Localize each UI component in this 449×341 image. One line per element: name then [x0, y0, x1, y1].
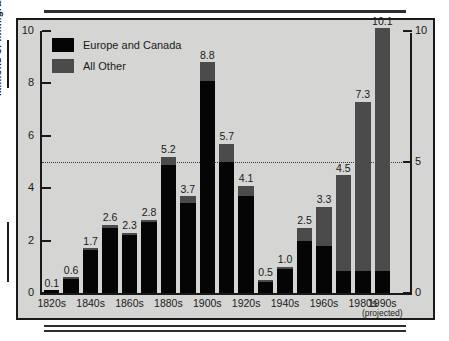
secondary-y-tick-label: 0 [415, 287, 421, 298]
y-tick-label: 2 [8, 235, 34, 246]
bar-1870s [141, 220, 157, 293]
bar-1910s [219, 144, 235, 293]
bar-value-label: 2.3 [122, 220, 137, 231]
chart-figure: 1086420 Millions of Immigrants 1050 0.10… [0, 0, 449, 341]
secondary-y-tick-mark [403, 161, 412, 163]
bar-value-label: 0.1 [44, 278, 59, 289]
secondary-y-tick-mark [403, 30, 412, 32]
bar-segment-all-other [375, 28, 391, 270]
chart-legend: Europe and Canada All Other [52, 38, 181, 80]
bottom-rule-lower [44, 330, 406, 332]
secondary-y-tick-label: 10 [415, 25, 427, 36]
bar-segment-europe-and-canada [63, 279, 79, 293]
x-tick-label-1820s: 1820s [30, 298, 74, 309]
bar-1880s [161, 157, 177, 293]
bar-value-label: 1.0 [278, 254, 293, 265]
x-tick-label-1990s: 1990s(projected) [360, 298, 404, 318]
bar-value-label: 8.8 [200, 50, 215, 61]
y-axis-title: Millions of Immigrants [0, 0, 3, 96]
y-tick-label: 4 [8, 182, 34, 193]
y-title-rule-bottom [7, 222, 9, 282]
bar-value-label: 3.3 [317, 194, 332, 205]
bar-1960s [316, 207, 332, 293]
bar-segment-europe-and-canada [180, 203, 196, 293]
bar-1990s [375, 28, 391, 293]
legend-label-all-other: All Other [83, 61, 126, 72]
bar-segment-all-other [161, 157, 177, 165]
bar-value-label: 0.5 [258, 267, 273, 278]
bar-segment-all-other [355, 102, 371, 271]
y-tick-label: 0 [8, 287, 34, 298]
bar-value-label: 7.3 [356, 89, 371, 100]
secondary-y-tick-label: 5 [415, 156, 421, 167]
x-tick-label-1920s: 1920s [224, 298, 268, 309]
bar-segment-europe-and-canada [336, 271, 352, 293]
legend-label-europe-and-canada: Europe and Canada [83, 40, 181, 51]
y-title-rule-top [7, 40, 9, 88]
x-tick-label-1900s: 1900s [185, 298, 229, 309]
bar-1930s [258, 280, 274, 293]
secondary-y-axis-line [410, 33, 412, 294]
x-tick-sublabel-projected: (projected) [360, 309, 404, 318]
bar-segment-europe-and-canada [277, 269, 293, 293]
x-tick-label-1860s: 1860s [108, 298, 152, 309]
legend-item-europe-and-canada: Europe and Canada [52, 38, 181, 52]
bar-value-label: 2.6 [103, 212, 118, 223]
bar-segment-all-other [297, 228, 313, 241]
bar-1920s [238, 186, 254, 293]
bar-1980s [355, 102, 371, 293]
x-axis-line [40, 293, 412, 295]
bar-value-label: 1.7 [83, 236, 98, 247]
bar-value-label: 5.2 [161, 144, 176, 155]
y-tick-label: 8 [8, 77, 34, 88]
bar-value-label: 2.8 [142, 207, 157, 218]
x-axis-tick-labels: 1820s1840s1860s1880s1900s1920s1940s1960s… [42, 298, 392, 322]
bar-value-label: 2.5 [297, 215, 312, 226]
bar-segment-europe-and-canada [316, 246, 332, 293]
bar-segment-all-other [219, 144, 235, 162]
bar-segment-europe-and-canada [219, 162, 235, 293]
bar-value-label: 3.7 [181, 184, 196, 195]
bar-segment-europe-and-canada [297, 241, 313, 293]
bar-segment-all-other [316, 207, 332, 246]
bar-1860s [122, 233, 138, 293]
top-rule [44, 10, 406, 13]
bar-1840s [83, 248, 99, 293]
bar-segment-europe-and-canada [141, 222, 157, 293]
bar-segment-europe-and-canada [375, 271, 391, 293]
bar-segment-europe-and-canada [355, 271, 371, 293]
bar-segment-all-other [336, 175, 352, 271]
bar-1940s [277, 267, 293, 293]
y-tick-label: 6 [8, 130, 34, 141]
bar-segment-europe-and-canada [122, 235, 138, 293]
bar-1900s [200, 62, 216, 293]
legend-swatch-icon-all-other [52, 59, 74, 73]
x-tick-label-1880s: 1880s [146, 298, 190, 309]
bar-segment-europe-and-canada [102, 228, 118, 294]
bar-segment-all-other [200, 62, 216, 80]
bar-segment-europe-and-canada [238, 196, 254, 293]
legend-item-all-other: All Other [52, 59, 181, 73]
bar-segment-all-other [238, 186, 254, 196]
bar-segment-europe-and-canada [161, 165, 177, 293]
bar-value-label: 10.1 [372, 16, 392, 27]
x-tick-label-1960s: 1960s [302, 298, 346, 309]
bar-segment-europe-and-canada [258, 282, 274, 293]
bar-1850s [102, 225, 118, 293]
bottom-rule-upper [44, 325, 406, 327]
bar-value-label: 4.1 [239, 173, 254, 184]
bar-value-label: 5.7 [219, 131, 234, 142]
bar-1890s [180, 196, 196, 293]
bar-segment-europe-and-canada [83, 250, 99, 293]
x-tick-label-1840s: 1840s [69, 298, 113, 309]
bar-1970s [336, 175, 352, 293]
bar-value-label: 0.6 [64, 265, 79, 276]
bar-1950s [297, 228, 313, 294]
bar-segment-europe-and-canada [200, 81, 216, 293]
bar-1830s [63, 277, 79, 293]
y-tick-label: 10 [8, 25, 34, 36]
bar-value-label: 4.5 [336, 163, 351, 174]
legend-swatch-icon-europe-and-canada [52, 38, 74, 52]
x-tick-label-1940s: 1940s [263, 298, 307, 309]
